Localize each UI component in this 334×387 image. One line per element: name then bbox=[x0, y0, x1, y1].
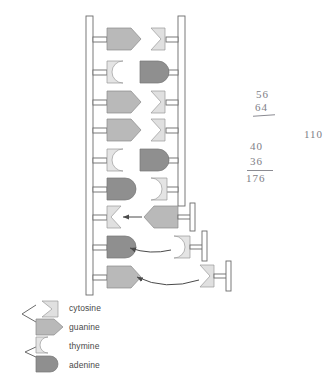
base-cytosine bbox=[151, 91, 165, 113]
handwritten-note-bottom-line1: 40 bbox=[250, 140, 263, 152]
base-cytosine bbox=[107, 206, 121, 228]
base-guanine bbox=[144, 206, 178, 228]
base-thymine bbox=[174, 236, 190, 258]
base-adenine bbox=[107, 178, 136, 200]
legend-label-cytosine: cytosine bbox=[69, 303, 101, 313]
right-backbone-rail bbox=[178, 16, 185, 206]
legend-swatch-adenine bbox=[36, 356, 58, 372]
rung-9-unpaired bbox=[107, 266, 141, 288]
base-adenine bbox=[140, 149, 169, 171]
legend-bracket bbox=[22, 305, 38, 358]
handwritten-note-top-line1: 56 bbox=[256, 88, 269, 100]
base-thymine bbox=[151, 178, 167, 200]
base-cytosine bbox=[151, 28, 165, 50]
handwritten-note-top-line2: 64 bbox=[255, 101, 268, 113]
rung-2 bbox=[107, 61, 169, 83]
legend bbox=[22, 301, 63, 372]
rung-3 bbox=[107, 91, 165, 113]
base-adenine bbox=[107, 236, 136, 258]
rung-5 bbox=[107, 149, 169, 171]
phosphate-tail bbox=[214, 261, 231, 291]
base-guanine bbox=[107, 119, 141, 141]
insertion-arrow bbox=[137, 277, 199, 285]
legend-label-guanine: guanine bbox=[69, 322, 100, 332]
free-nucleotide-thymine bbox=[130, 231, 207, 261]
free-nucleotide-cytosine bbox=[137, 261, 231, 291]
base-guanine bbox=[107, 91, 141, 113]
base-guanine bbox=[107, 28, 141, 50]
base-adenine bbox=[140, 61, 169, 83]
base-thymine bbox=[107, 149, 123, 171]
rung-4 bbox=[107, 119, 165, 141]
left-backbone-rail bbox=[86, 16, 93, 295]
left-sugar-connectors bbox=[93, 37, 107, 280]
handwritten-note-bottom-line2: 36 bbox=[250, 155, 263, 167]
handwritten-note-bottom-underline bbox=[247, 170, 273, 171]
right-sugar-connectors bbox=[166, 37, 178, 192]
rung-1 bbox=[107, 28, 165, 50]
base-cytosine bbox=[200, 265, 214, 287]
rung-8-unpaired bbox=[107, 236, 136, 258]
rung-6 bbox=[107, 178, 167, 200]
base-guanine bbox=[107, 266, 141, 288]
dna-replication-diagram bbox=[0, 0, 334, 387]
base-thymine bbox=[107, 61, 123, 83]
handwritten-note-bottom-line3: 176 bbox=[246, 172, 266, 184]
rung-7-unpaired bbox=[107, 206, 121, 228]
free-nucleotide-guanine bbox=[123, 203, 195, 231]
base-cytosine bbox=[151, 119, 165, 141]
phosphate-tail bbox=[178, 203, 195, 231]
legend-swatch-cytosine bbox=[42, 301, 58, 317]
legend-swatch-thymine bbox=[36, 337, 48, 353]
legend-swatch-guanine bbox=[36, 319, 63, 335]
handwritten-note-right: 110 bbox=[304, 128, 323, 140]
legend-label-thymine: thymine bbox=[69, 341, 99, 351]
legend-label-adenine: adenine bbox=[69, 360, 100, 370]
phosphate-tail bbox=[190, 231, 207, 261]
